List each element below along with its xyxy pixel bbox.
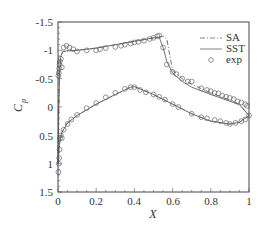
- sst-upper-curve: [58, 37, 249, 163]
- x-tick-labels: 0 0.2 0.4 0.6 0.8 1: [55, 195, 252, 207]
- exp-data-point: [113, 45, 118, 50]
- y-axis-title: C p: [11, 99, 28, 112]
- legend-item-exp: exp: [209, 53, 243, 65]
- y-tick-label: -0.5: [36, 73, 54, 85]
- x-tick-label: 0.6: [166, 195, 180, 207]
- circle-marker-icon: [209, 58, 214, 63]
- exp-data-point: [75, 49, 80, 54]
- y-tick-label: 1.5: [39, 186, 53, 198]
- legend: SA SST exp: [200, 31, 245, 65]
- plot-area: [56, 33, 251, 174]
- y-tick-label: -1: [44, 44, 53, 56]
- legend-label: exp: [226, 53, 242, 65]
- axis-ticks: [58, 22, 249, 192]
- y-tick-label: 0.5: [39, 130, 53, 142]
- x-tick-label: 0: [55, 195, 61, 207]
- exp-data-point: [142, 38, 147, 43]
- cp-distribution-chart: -1.5 -1 -0.5 0 0.5 1 1.5 0 0.2 0.4 0.6 0…: [0, 0, 267, 226]
- y-tick-label: 0: [48, 101, 54, 113]
- sa-upper-curve: [58, 36, 249, 164]
- y-axis-title-subscript: p: [19, 99, 28, 104]
- x-tick-label: 0.8: [204, 195, 218, 207]
- exp-data-point: [84, 48, 89, 53]
- y-tick-label: 1: [48, 158, 54, 170]
- y-tick-labels: -1.5 -1 -0.5 0 0.5 1 1.5: [36, 16, 54, 198]
- x-tick-label: 0.2: [89, 195, 103, 207]
- y-tick-label: -1.5: [36, 16, 54, 28]
- plot-frame: [58, 22, 249, 192]
- y-axis-title-main: C: [11, 103, 25, 112]
- x-axis-title: X: [148, 207, 157, 221]
- x-tick-label: 0.4: [127, 195, 141, 207]
- x-tick-label: 1: [246, 195, 252, 207]
